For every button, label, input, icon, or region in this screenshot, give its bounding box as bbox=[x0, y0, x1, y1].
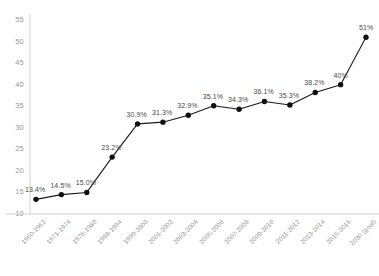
data-point-markers bbox=[33, 35, 368, 203]
data-value-label: 13.4% bbox=[25, 186, 45, 193]
data-point-marker bbox=[109, 154, 114, 159]
data-value-label: 51% bbox=[359, 24, 373, 31]
data-value-label: 40% bbox=[334, 72, 348, 79]
data-value-label: 36.1% bbox=[253, 88, 273, 95]
data-value-label: 23.2% bbox=[101, 144, 121, 151]
data-point-marker bbox=[313, 90, 318, 95]
data-point-marker bbox=[59, 192, 64, 197]
data-value-label: 31.3% bbox=[152, 109, 172, 116]
data-point-marker bbox=[33, 197, 38, 202]
data-value-label: 34.3% bbox=[228, 96, 248, 103]
data-value-label: 15.0% bbox=[76, 179, 96, 186]
data-value-label: 14.5% bbox=[50, 182, 70, 189]
series-line bbox=[36, 37, 366, 199]
data-point-marker bbox=[160, 119, 165, 124]
data-value-label: 32.9% bbox=[177, 102, 197, 109]
data-value-label: 35.3% bbox=[279, 92, 299, 99]
data-point-marker bbox=[135, 121, 140, 126]
data-point-marker bbox=[236, 107, 241, 112]
data-value-label: 38.2% bbox=[304, 79, 324, 86]
data-point-marker bbox=[84, 190, 89, 195]
data-value-label: 30.9% bbox=[127, 111, 147, 118]
data-value-label: 35.1% bbox=[203, 93, 223, 100]
data-point-marker bbox=[338, 82, 343, 87]
data-point-marker bbox=[287, 102, 292, 107]
data-point-marker bbox=[186, 113, 191, 118]
data-point-marker bbox=[211, 103, 216, 108]
data-point-marker bbox=[262, 99, 267, 104]
plot-area bbox=[0, 0, 379, 276]
line-chart: 10152025303540455055 1960-19621971-19741… bbox=[0, 0, 379, 276]
data-point-marker bbox=[363, 35, 368, 40]
